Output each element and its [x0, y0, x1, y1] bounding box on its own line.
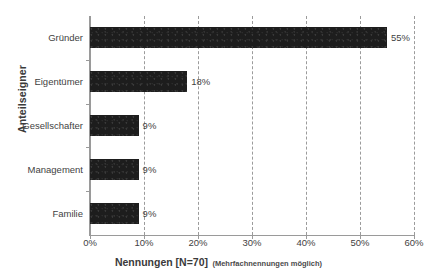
x-axis-title: Nennungen [N=70] (Mehrfachnennungen mögl… [0, 252, 437, 270]
category-label: Gründer [0, 27, 83, 48]
x-axis-tick-label: 0% [70, 237, 110, 248]
category-label: Management [0, 159, 83, 180]
x-axis-tick-label: 10% [124, 237, 164, 248]
x-axis-tick-label: 30% [232, 237, 272, 248]
x-axis-tick-label: 40% [286, 237, 326, 248]
bar-chart-figure: Anteilseigner 55%18%9%9%9% GründerEigent… [0, 0, 437, 273]
x-axis-tick-labels: 0%10%20%30%40%50%60% [0, 237, 437, 251]
x-axis-tick-label: 20% [178, 237, 218, 248]
category-label: Familie [0, 203, 83, 224]
x-axis-title-main: Nennungen [N=70] [115, 256, 208, 268]
category-label: Eigentümer [0, 71, 83, 92]
category-label: Gesellschafter [0, 115, 83, 136]
category-labels: GründerEigentümerGesellschafterManagemen… [0, 16, 437, 235]
x-axis-tick-label: 50% [340, 237, 380, 248]
x-axis-tick-label: 60% [394, 237, 434, 248]
x-axis-title-note: (Mehrfachnennungen möglich) [212, 259, 322, 268]
